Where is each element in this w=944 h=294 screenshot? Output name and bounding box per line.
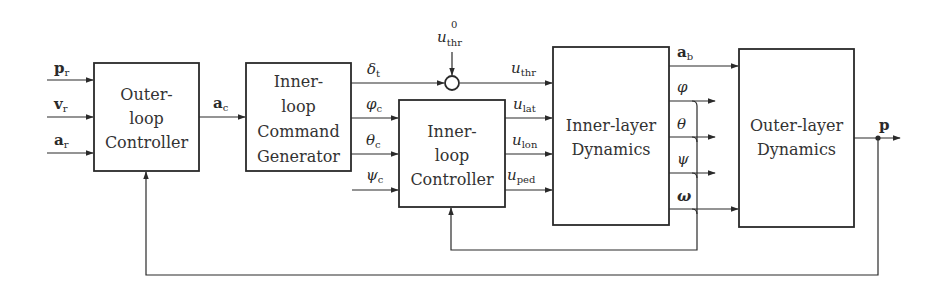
junction-dot bbox=[875, 135, 880, 140]
label-u-thr0-sup: 0 bbox=[451, 19, 457, 30]
label-u-ped: uped bbox=[507, 166, 536, 185]
label-phi-c: φc bbox=[366, 95, 383, 114]
block-label: Inner- bbox=[274, 72, 323, 91]
block-outer-layer-dynamics: Outer-layer Dynamics bbox=[739, 49, 854, 227]
label-a-r: ar bbox=[54, 131, 69, 150]
label-omega: ω bbox=[677, 187, 691, 205]
label-u-lat: ulat bbox=[513, 95, 536, 114]
block-label: loop bbox=[435, 146, 470, 165]
label-theta: θ bbox=[677, 115, 686, 133]
block-label: Command bbox=[257, 122, 339, 141]
block-label: Controller bbox=[410, 170, 494, 189]
wire-tap-omega bbox=[692, 209, 697, 214]
block-label: Inner-layer bbox=[566, 116, 657, 135]
summing-junction bbox=[445, 76, 459, 90]
label-delta-t: δt bbox=[367, 60, 380, 79]
block-label: loop bbox=[281, 97, 316, 116]
block-label: Outer- bbox=[120, 85, 172, 104]
label-u-thr0: uthr bbox=[437, 28, 462, 48]
block-label: Inner- bbox=[427, 122, 476, 141]
label-psi-c: ψc bbox=[366, 166, 384, 185]
label-u-thr: uthr bbox=[511, 59, 536, 78]
wire-tap-psi bbox=[692, 173, 697, 178]
block-label: Outer-layer bbox=[750, 116, 844, 135]
label-a-c: ac bbox=[213, 94, 229, 113]
block-label: Controller bbox=[105, 133, 189, 152]
block-outer-loop-controller: Outer- loop Controller bbox=[94, 63, 199, 171]
label-a-b: ab bbox=[677, 43, 693, 62]
label-p: p bbox=[879, 116, 890, 134]
block-label: Dynamics bbox=[571, 140, 650, 159]
block-inner-layer-dynamics: Inner-layer Dynamics bbox=[553, 47, 669, 225]
label-phi: φ bbox=[677, 78, 688, 96]
label-p-r: pr bbox=[54, 59, 70, 78]
block-inner-loop-controller: Inner- loop Controller bbox=[399, 100, 505, 207]
label-theta-c: θc bbox=[366, 131, 381, 150]
control-block-diagram: Outer- loop Controller Inner- loop Comma… bbox=[0, 0, 944, 294]
wire-tap-theta bbox=[692, 137, 697, 142]
label-v-r: vr bbox=[53, 95, 68, 114]
label-psi: ψ bbox=[677, 150, 689, 168]
block-label: Generator bbox=[257, 147, 340, 166]
label-u-lon: ulon bbox=[512, 131, 538, 150]
block-label: Dynamics bbox=[757, 140, 836, 159]
block-label: loop bbox=[129, 109, 164, 128]
block-inner-loop-command-generator: Inner- loop Command Generator bbox=[246, 63, 351, 171]
